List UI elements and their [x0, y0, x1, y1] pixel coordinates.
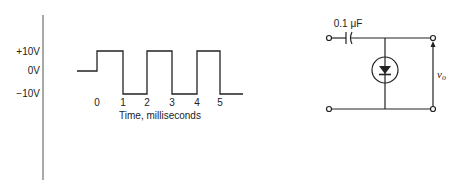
diode-icon	[379, 57, 391, 83]
tick-5: 5	[217, 97, 223, 108]
output-voltage-label: vo	[437, 68, 446, 82]
label-minus-10v: −10V	[16, 88, 40, 99]
tick-0: 0	[94, 97, 100, 108]
arrowhead-icon	[431, 41, 436, 47]
output-terminal-bottom	[431, 107, 436, 112]
tick-1: 1	[120, 97, 126, 108]
label-plus-10v: +10V	[16, 46, 40, 57]
circuit	[327, 32, 436, 112]
square-wave	[77, 51, 243, 94]
tick-4: 4	[194, 97, 200, 108]
output-terminal-top	[431, 36, 436, 41]
input-terminal-bottom	[327, 107, 332, 112]
x-axis-label: Time, milliseconds	[119, 110, 201, 121]
tick-3: 3	[169, 97, 175, 108]
tick-2: 2	[144, 97, 150, 108]
label-0v: 0V	[28, 65, 41, 76]
input-terminal-top	[327, 36, 332, 41]
figure: +10V 0V −10V 0 1 2 3 4 5 Time, milliseco…	[0, 0, 451, 193]
capacitor-label: 0.1 μF	[334, 18, 363, 29]
